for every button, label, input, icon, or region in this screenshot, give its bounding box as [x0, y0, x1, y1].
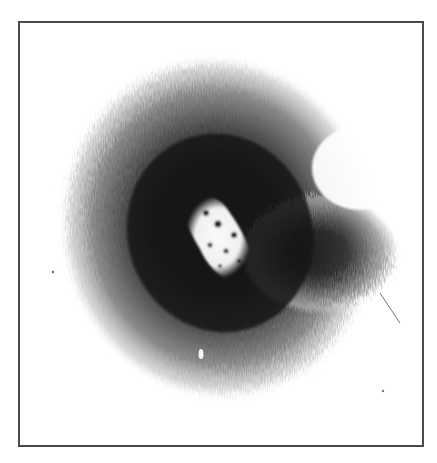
radial-spread-graphic: [20, 23, 422, 445]
image-frame: [18, 21, 424, 447]
radial-spread-image: [20, 23, 422, 445]
